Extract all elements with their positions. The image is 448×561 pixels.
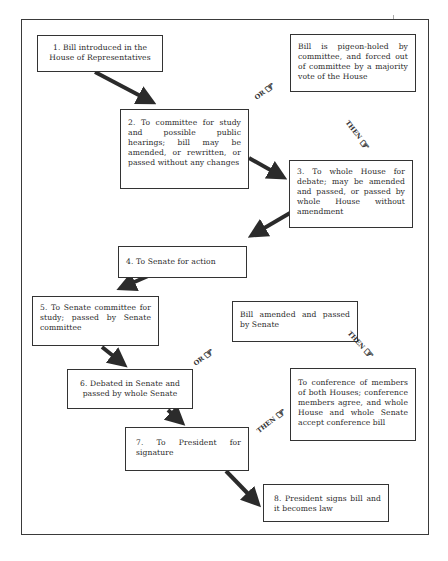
arrow-2-to-3 bbox=[249, 158, 281, 176]
arrow-6-to-7 bbox=[168, 410, 180, 421]
step-8-box: 8. President signs bill and it becomes l… bbox=[263, 484, 389, 522]
step-6-box: 6. Debated in Senate and passed by whole… bbox=[67, 369, 193, 409]
step-1-box: 1. Bill introduced in the House of Repre… bbox=[37, 35, 163, 72]
arrow-1-to-2 bbox=[95, 72, 150, 101]
step-5-box: 5. To Senate committee for study; passed… bbox=[32, 296, 159, 346]
step-4-box: 4. To Senate for action bbox=[118, 246, 247, 278]
step-7-box: 7. To President for signature bbox=[125, 427, 249, 471]
conference-box: To conference of members of both Houses;… bbox=[290, 368, 416, 441]
senate-amended-box: Bill amended and passed by Senate bbox=[232, 301, 358, 342]
arrow-5-to-6 bbox=[102, 347, 122, 363]
step-3-box: 3. To whole House for debate; may be ame… bbox=[289, 160, 413, 228]
arrow-7-to-8 bbox=[226, 471, 256, 502]
pigeonhole-box: Bill is pigeon-holed by committee, and f… bbox=[290, 34, 416, 92]
step-2-box: 2. To committee for study and possible p… bbox=[120, 109, 249, 189]
arrow-3-to-4 bbox=[254, 213, 290, 234]
